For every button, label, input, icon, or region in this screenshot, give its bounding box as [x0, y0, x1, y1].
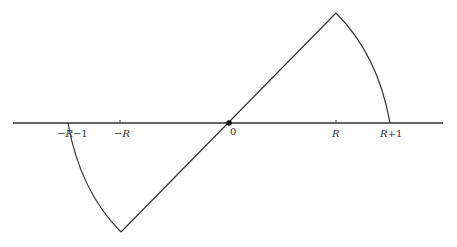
label-neg-r: −R	[114, 128, 130, 139]
label-zero: 0	[230, 126, 236, 137]
label-neg-r-minus-1: −R−1	[57, 128, 88, 139]
left-arc	[68, 123, 121, 232]
label-r: R	[331, 128, 340, 139]
diagram-canvas: −R−1 −R 0 R R+1	[0, 0, 457, 247]
label-r-plus-1: R+1	[379, 128, 402, 139]
origin-point	[226, 120, 232, 126]
right-arc	[336, 13, 390, 123]
